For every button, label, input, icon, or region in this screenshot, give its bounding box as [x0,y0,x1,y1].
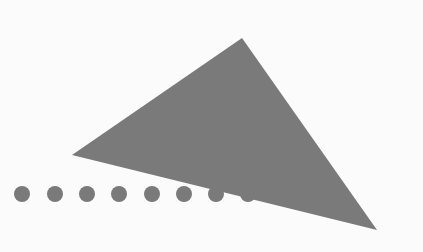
shapes-drawing [0,0,423,252]
dot [144,186,160,202]
diagram-canvas [0,0,423,252]
dot [176,186,192,202]
dot [47,186,63,202]
dot [111,186,127,202]
dot [14,186,30,202]
dot [79,186,95,202]
